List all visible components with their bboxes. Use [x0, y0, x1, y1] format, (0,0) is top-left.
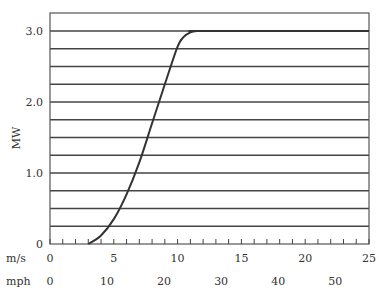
x-tick-label-mph: 20 — [157, 275, 171, 288]
x-tick-label-ms: 5 — [110, 252, 117, 265]
y-tick-label: 2.0 — [26, 96, 44, 109]
y-tick-label: 1.0 — [26, 167, 44, 180]
y-axis-label: MW — [10, 126, 23, 149]
x-minor-ticks — [50, 239, 369, 244]
x-tick-label-mph: 30 — [214, 275, 228, 288]
gridlines — [50, 31, 369, 226]
x-axis-label-mph: mph — [6, 275, 31, 288]
x-axis-label-ms: m/s — [6, 252, 26, 265]
x-tick-label-ms: 15 — [234, 252, 248, 265]
y-tick-label: 0 — [36, 238, 43, 251]
x-tick-label-ms: 10 — [171, 252, 185, 265]
x-tick-labels-ms: 0510152025 — [47, 252, 377, 265]
x-tick-label-mph: 0 — [47, 275, 54, 288]
x-tick-label-mph: 40 — [271, 275, 285, 288]
x-tick-label-ms: 0 — [47, 252, 54, 265]
x-tick-label-ms: 20 — [298, 252, 312, 265]
y-tick-labels: 01.02.03.0 — [26, 25, 44, 251]
x-tick-label-ms: 25 — [362, 252, 376, 265]
x-tick-label-mph: 50 — [328, 275, 342, 288]
x-tick-labels-mph: 01020304050 — [47, 275, 343, 288]
power-curve-chart: 01.02.03.0 MW m/s mph 0510152025 0102030… — [0, 0, 379, 296]
plot-frame — [50, 13, 369, 244]
y-tick-label: 3.0 — [26, 25, 44, 38]
x-tick-label-mph: 10 — [100, 275, 114, 288]
